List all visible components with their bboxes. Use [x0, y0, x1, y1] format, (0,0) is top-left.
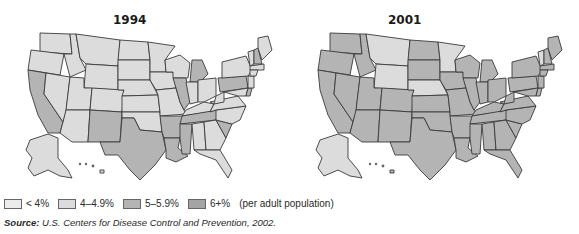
- state-MS: [470, 124, 482, 154]
- state-CT: [250, 70, 258, 76]
- source-line: Source: U.S. Centers for Disease Control…: [4, 217, 276, 228]
- state-MT: [76, 34, 120, 66]
- state-AK: [26, 134, 72, 178]
- legend-swatch: [123, 199, 141, 209]
- legend: < 4% 4–4.9% 5–5.9% 6+% (per adult popula…: [4, 198, 334, 209]
- state-AZ: [60, 110, 90, 142]
- map-title-1994: 1994: [113, 13, 146, 27]
- state-MI: [480, 60, 498, 82]
- state-CO: [380, 88, 414, 112]
- state-OH: [488, 78, 506, 102]
- legend-item-5-5.9: 5–5.9%: [123, 198, 179, 209]
- state-MI: [190, 60, 208, 82]
- map-title-2001: 2001: [388, 13, 421, 27]
- state-NY: [222, 56, 252, 78]
- map-1994: [0, 30, 290, 195]
- state-ND: [408, 40, 440, 60]
- state-AZ: [350, 110, 380, 142]
- legend-swatch: [4, 199, 22, 209]
- state-OH: [198, 78, 216, 102]
- us-map-2001: [290, 30, 579, 195]
- legend-item-4-4.9: 4–4.9%: [58, 198, 114, 209]
- map-2001: [290, 30, 579, 195]
- state-KS: [412, 95, 450, 112]
- state-MS: [180, 124, 192, 154]
- state-NM: [378, 110, 412, 142]
- us-map-1994: [0, 30, 290, 195]
- state-NJ: [538, 76, 544, 88]
- state-IA: [150, 72, 176, 90]
- state-FL: [194, 150, 232, 178]
- legend-item-lt4: < 4%: [4, 198, 49, 209]
- legend-label: 6+%: [210, 198, 230, 209]
- state-WA: [40, 33, 72, 54]
- state-SD: [408, 60, 440, 80]
- state-NY: [512, 56, 542, 78]
- state-HI: [390, 170, 394, 173]
- state-SD: [118, 60, 150, 80]
- legend-label: 5–5.9%: [145, 198, 179, 209]
- legend-label: < 4%: [26, 198, 49, 209]
- state-WA: [330, 33, 362, 54]
- legend-label: 4–4.9%: [80, 198, 114, 209]
- source-text: U.S. Centers for Disease Control and Pre…: [42, 217, 276, 228]
- state-NM: [88, 110, 122, 142]
- state-WY: [84, 64, 118, 90]
- state-CT: [540, 70, 548, 76]
- state-FL: [484, 150, 522, 178]
- state-WY: [374, 64, 408, 90]
- legend-note: (per adult population): [239, 198, 334, 209]
- state-NJ: [248, 76, 254, 88]
- state-IA: [440, 72, 466, 90]
- legend-swatch: [58, 199, 76, 209]
- state-MT: [366, 34, 410, 66]
- state-ND: [118, 40, 150, 60]
- legend-item-6plus: 6+%: [188, 198, 230, 209]
- state-AK: [316, 134, 362, 178]
- state-HI: [100, 170, 104, 173]
- state-KS: [122, 95, 160, 112]
- state-CO: [90, 88, 124, 112]
- legend-swatch: [188, 199, 206, 209]
- source-label: Source:: [4, 217, 39, 228]
